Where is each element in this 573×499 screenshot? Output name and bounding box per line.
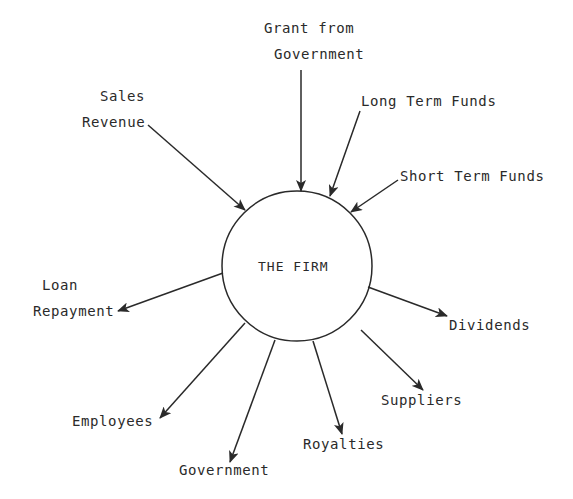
label-the-firm: THE FIRM — [258, 259, 329, 275]
label-repayment: Repayment — [33, 303, 114, 319]
label-revenue: Revenue — [82, 114, 145, 130]
label-loan: Loan — [42, 277, 78, 293]
outflow-arrow-dividends — [368, 287, 447, 316]
outflow-arrow-suppliers — [361, 330, 423, 390]
inflow-arrow-sales-revenue — [148, 125, 245, 210]
label-grant-government: Government — [274, 46, 364, 62]
inflow-arrow-long-term-funds — [330, 111, 360, 196]
label-royalties: Royalties — [303, 436, 384, 452]
outflow-arrow-government — [230, 340, 275, 462]
label-short-term-funds: Short Term Funds — [400, 168, 544, 184]
label-grant-from: Grant from — [264, 20, 354, 36]
outflow-arrow-royalties — [313, 341, 342, 434]
outflow-arrow-loan-repayment — [118, 273, 223, 311]
label-sales: Sales — [100, 88, 145, 104]
label-dividends: Dividends — [449, 317, 530, 333]
outflow-arrow-employees — [160, 323, 245, 418]
label-long-term-funds: Long Term Funds — [361, 93, 496, 109]
label-suppliers: Suppliers — [381, 392, 462, 408]
label-employees: Employees — [72, 413, 153, 429]
inflow-arrow-short-term-funds — [351, 180, 398, 212]
label-government-outflow: Government — [179, 462, 269, 478]
